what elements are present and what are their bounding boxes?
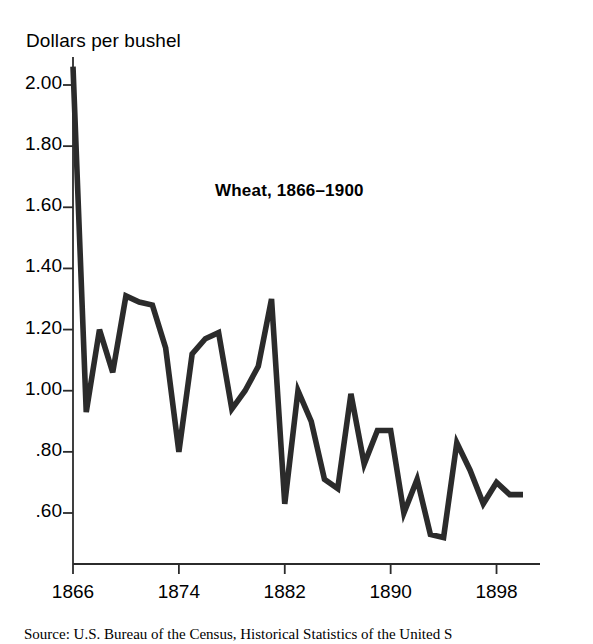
y-tick-label: 1.40 bbox=[0, 255, 62, 277]
y-tick-label: 1.60 bbox=[0, 194, 62, 216]
y-tick-label: 1.80 bbox=[0, 133, 62, 155]
wheat-price-figure: Dollars per bushel Wheat, 1866–1900 2.00… bbox=[0, 0, 593, 644]
y-tick-label: 2.00 bbox=[0, 72, 62, 94]
source-note: Source: U.S. Bureau of the Census, Histo… bbox=[24, 626, 452, 643]
plot-area bbox=[0, 0, 593, 644]
y-tick-marks bbox=[63, 85, 73, 513]
x-tick-label: 1882 bbox=[250, 581, 320, 603]
x-tick-label: 1866 bbox=[38, 581, 108, 603]
x-tick-label: 1874 bbox=[144, 581, 214, 603]
data-line-wheat-price bbox=[73, 67, 523, 538]
y-tick-label: .80 bbox=[0, 439, 62, 461]
y-tick-label: .60 bbox=[0, 500, 62, 522]
chart-svg bbox=[0, 0, 593, 644]
y-tick-label: 1.20 bbox=[0, 317, 62, 339]
x-tick-label: 1898 bbox=[462, 581, 532, 603]
y-tick-label: 1.00 bbox=[0, 378, 62, 400]
axes bbox=[73, 57, 540, 564]
x-tick-marks bbox=[73, 564, 497, 574]
x-tick-label: 1890 bbox=[356, 581, 426, 603]
